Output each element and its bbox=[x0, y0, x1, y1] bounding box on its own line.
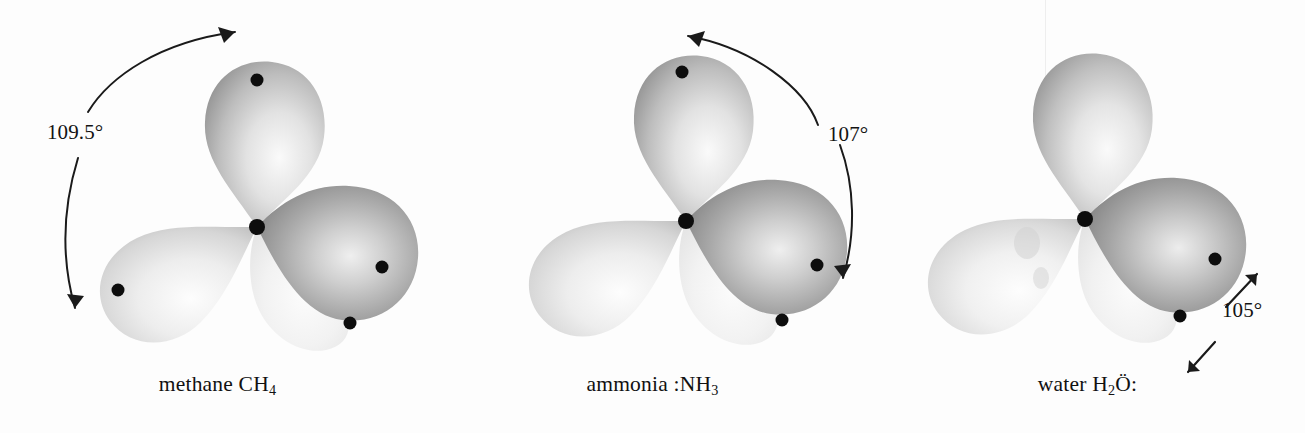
caption-ammonia-formula: :NH bbox=[674, 372, 712, 396]
electron-dot-left bbox=[112, 284, 125, 297]
oxygen-nucleus bbox=[1077, 211, 1093, 227]
electron-dot-top bbox=[251, 74, 264, 87]
water-orbital-drawing bbox=[870, 0, 1305, 433]
caption-methane: methane CH4 bbox=[0, 372, 435, 397]
ammonia-left-lobe bbox=[529, 221, 686, 337]
caption-ammonia: ammonia :NH3 bbox=[435, 372, 870, 397]
carbon-nucleus bbox=[249, 219, 265, 235]
electron-dot-back bbox=[1174, 310, 1187, 323]
caption-water: water H2Ö: bbox=[870, 372, 1305, 397]
electron-dot-right bbox=[376, 261, 389, 274]
electron-dot-right bbox=[1209, 253, 1222, 266]
caption-methane-subscript: 4 bbox=[269, 382, 276, 398]
left-lobe-mottle-b bbox=[1033, 267, 1049, 289]
methane-arrowhead-lower bbox=[67, 294, 84, 308]
electron-dot-top bbox=[676, 66, 689, 79]
electron-dot-right bbox=[811, 259, 824, 272]
electron-dot-back bbox=[344, 317, 357, 330]
caption-ammonia-subscript: 3 bbox=[711, 382, 718, 398]
orbital-figure: 109.5° methane CH4 bbox=[0, 0, 1305, 433]
caption-ammonia-name: ammonia bbox=[587, 372, 674, 396]
caption-water-formula: H bbox=[1092, 372, 1108, 396]
ammonia-orbital-drawing bbox=[435, 0, 870, 433]
angle-label-ammonia: 107° bbox=[828, 122, 868, 147]
electron-dot-back bbox=[776, 314, 789, 327]
methane-left-lobe bbox=[100, 227, 257, 343]
methane-orbital-drawing bbox=[0, 0, 435, 433]
panel-water: 105° water H2Ö: bbox=[870, 0, 1305, 433]
caption-water-formula-tail: Ö: bbox=[1115, 372, 1137, 396]
panel-ammonia: 107° ammonia :NH3 bbox=[435, 0, 870, 433]
water-left-lobe bbox=[928, 219, 1085, 335]
caption-water-name: water bbox=[1038, 372, 1092, 396]
caption-methane-name: methane bbox=[159, 372, 239, 396]
angle-label-methane: 109.5° bbox=[47, 120, 103, 145]
panel-methane: 109.5° methane CH4 bbox=[0, 0, 435, 433]
left-lobe-mottle-a bbox=[1014, 227, 1040, 259]
angle-label-water: 105° bbox=[1222, 298, 1262, 323]
caption-methane-formula: CH bbox=[239, 372, 269, 396]
nitrogen-nucleus bbox=[678, 213, 694, 229]
